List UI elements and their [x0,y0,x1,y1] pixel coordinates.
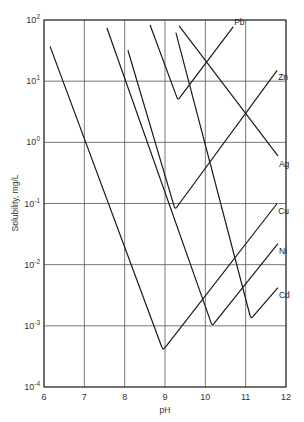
x-tick-label: 12 [281,392,291,402]
y-tick-label: 10-4 [24,380,40,392]
y-tick-label: 102 [26,13,40,25]
x-tick-label: 9 [162,392,167,402]
series-label-ag: Ag [279,159,290,169]
series-label-zn: Zn [278,72,288,82]
series-label-ni: Ni [279,246,287,256]
x-tick-label: 7 [82,392,87,402]
y-tick-label: 10-1 [24,197,40,209]
series-line-ni [107,28,278,325]
series-line-zn [128,50,277,208]
grid-lines [44,20,286,387]
y-tick-label: 101 [26,74,40,86]
y-tick-label: 100 [26,135,40,147]
y-tick-label: 10-2 [24,258,40,270]
x-axis-label: pH [160,405,171,415]
series-label-cd: Cd [279,290,290,300]
x-tick-label: 11 [241,392,250,402]
series-label-pb: Pb [234,17,245,27]
series-line-pb [150,25,233,99]
y-tick-label: 10-3 [24,319,40,331]
x-tick-label: 10 [200,392,210,402]
y-axis-label: Solubility, mg/L [10,174,20,231]
x-tick-label: 8 [122,392,127,402]
x-tick-label: 6 [41,392,46,402]
series-labels: PbZnAgCuNiCd [234,17,290,300]
solubility-chart: 10210110010-110-210-310-4 6789101112 PbZ… [0,0,304,422]
series-label-cu: Cu [278,206,289,216]
series-line-cd [176,33,278,318]
y-tick-labels: 10210110010-110-210-310-4 [24,13,40,392]
x-tick-labels: 6789101112 [41,392,291,402]
